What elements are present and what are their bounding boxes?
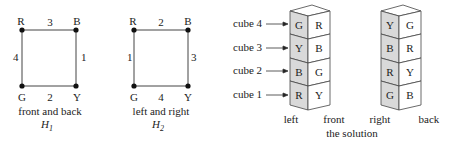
h2-label: H2 bbox=[151, 118, 164, 133]
h1-edge-label-left: 4 bbox=[13, 51, 19, 63]
stack2-left-cube4: Y bbox=[386, 19, 394, 31]
h1-edge-label-right: 1 bbox=[81, 51, 87, 63]
arrowhead-icon bbox=[283, 93, 288, 97]
h2-edge-label-top: 2 bbox=[158, 16, 164, 28]
stack2-left-cube1: G bbox=[386, 89, 394, 101]
graph-h1: R B G Y 3 1 2 4 front and back H1 bbox=[13, 15, 87, 133]
cube-label-3: cube 3 bbox=[233, 41, 263, 53]
h2-vertex-b: B bbox=[184, 15, 191, 27]
h1-vertex-dot bbox=[73, 27, 78, 32]
stack2-front-cube3: R bbox=[406, 42, 414, 54]
stack2-right-label: right bbox=[370, 113, 391, 125]
stack2-left-cube2: R bbox=[386, 66, 394, 78]
h2-vertex-y: Y bbox=[184, 91, 192, 103]
cube-label-2: cube 2 bbox=[233, 64, 262, 76]
h1-vertex-dot bbox=[19, 27, 24, 32]
h2-vertex-r: R bbox=[129, 15, 137, 27]
h1-edge-label-top: 3 bbox=[47, 16, 53, 28]
cube-stack-right-back: Y B R G G R Y B right back bbox=[370, 5, 440, 125]
stack2-front-cube2: Y bbox=[406, 66, 414, 78]
arrowhead-icon bbox=[283, 22, 288, 26]
arrowhead-icon bbox=[283, 46, 288, 50]
h1-vertex-g: G bbox=[18, 91, 26, 103]
stack2-back-label: back bbox=[419, 113, 440, 125]
h1-edge-label-bottom: 2 bbox=[47, 91, 53, 103]
stack2-front-cube1: B bbox=[406, 89, 413, 101]
h1-caption: front and back bbox=[18, 105, 82, 117]
stack2-front-cube4: G bbox=[406, 19, 414, 31]
h2-edge-label-right: 3 bbox=[191, 51, 197, 63]
stack1-front-cube2: G bbox=[315, 66, 323, 78]
stack2-left-cube3: B bbox=[386, 42, 393, 54]
h2-vertex-dot bbox=[185, 83, 190, 88]
stack1-left-label: left bbox=[284, 113, 299, 125]
h2-vertex-dot bbox=[185, 27, 190, 32]
h1-vertex-b: B bbox=[73, 15, 80, 27]
h1-vertex-y: Y bbox=[73, 91, 81, 103]
h2-caption: left and right bbox=[133, 105, 190, 117]
arrowhead-icon bbox=[283, 69, 288, 73]
stack1-left-cube2: B bbox=[295, 66, 302, 78]
cube-label-4: cube 4 bbox=[233, 17, 263, 29]
solution-caption: the solution bbox=[326, 127, 378, 139]
h2-vertex-dot bbox=[131, 83, 136, 88]
h2-edge-label-left: 1 bbox=[127, 51, 133, 63]
h1-vertex-dot bbox=[73, 83, 78, 88]
stack1-front-cube1: Y bbox=[315, 89, 323, 101]
h2-vertex-g: G bbox=[130, 91, 138, 103]
cube-labels: cube 4 cube 3 cube 2 cube 1 bbox=[233, 17, 288, 100]
h1-vertex-dot bbox=[19, 83, 24, 88]
stack1-front-cube3: B bbox=[315, 42, 322, 54]
h1-label: H1 bbox=[40, 118, 53, 133]
stack1-left-cube1: R bbox=[295, 89, 303, 101]
stack1-left-cube4: G bbox=[295, 19, 303, 31]
cube-stack-left-front: G Y B R R B G Y left front bbox=[284, 5, 345, 125]
stack1-front-label: front bbox=[323, 113, 344, 125]
stack1-left-cube3: Y bbox=[295, 42, 303, 54]
stack1-front-cube4: R bbox=[315, 19, 323, 31]
h1-vertex-r: R bbox=[17, 15, 25, 27]
graph-h2: R B G Y 2 3 4 1 left and right H2 bbox=[127, 15, 197, 133]
h2-vertex-dot bbox=[131, 27, 136, 32]
cube-label-1: cube 1 bbox=[233, 88, 262, 100]
cube-puzzle-diagram: R B G Y 3 1 2 4 front and back H1 R B G … bbox=[0, 0, 449, 149]
h2-edge-label-bottom: 4 bbox=[158, 91, 164, 103]
